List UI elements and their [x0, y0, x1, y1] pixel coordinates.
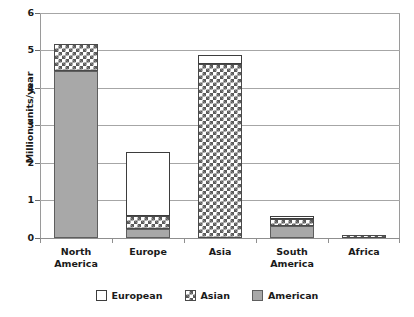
- x-label-north-america: North America: [40, 246, 112, 269]
- x-tick-5: [399, 239, 400, 243]
- y-axis-tick-labels: 6 5 4 3 2 1 0: [8, 0, 34, 317]
- x-tick-2: [184, 239, 185, 243]
- x-tick-1: [112, 239, 113, 243]
- y-tick-label-2: 2: [8, 158, 34, 168]
- bar-segment-american: [126, 229, 170, 238]
- x-label-asia: Asia: [184, 246, 256, 258]
- x-label-line1: North: [61, 246, 91, 257]
- bar-group: [126, 152, 170, 238]
- y-tick-label-6: 6: [8, 8, 34, 18]
- x-label-line1: Africa: [348, 246, 379, 257]
- bar-segment-european: [198, 55, 242, 63]
- x-axis-tick-labels: North America Europe Asia South America …: [40, 246, 400, 280]
- checkered-square-icon: [185, 290, 196, 301]
- x-label-line1: South: [276, 246, 307, 257]
- bar-group: [54, 44, 98, 238]
- bar-segment-asian: [54, 44, 98, 71]
- legend-item-european: European: [96, 290, 163, 301]
- x-label-line2: America: [40, 258, 112, 270]
- chart-legend: European Asian American: [0, 290, 414, 301]
- x-label-line1: Asia: [209, 246, 232, 257]
- legend-label-asian: Asian: [201, 290, 230, 301]
- bar-segment-asian: [270, 219, 314, 227]
- x-axis-line: [40, 238, 400, 239]
- x-label-africa: Africa: [328, 246, 400, 258]
- legend-label-american: American: [268, 290, 318, 301]
- y-tick-label-5: 5: [8, 45, 34, 55]
- bar-segment-asian: [126, 216, 170, 229]
- x-label-line2: America: [256, 258, 328, 270]
- bar-segment-european: [126, 152, 170, 217]
- x-label-europe: Europe: [112, 246, 184, 258]
- bar-group: [270, 216, 314, 239]
- bar-segment-american: [270, 226, 314, 238]
- x-tick-3: [256, 239, 257, 243]
- bar-group: [198, 55, 242, 238]
- bar-segment-american: [54, 71, 98, 238]
- x-label-south-america: South America: [256, 246, 328, 269]
- x-label-line1: Europe: [129, 246, 167, 257]
- legend-item-american: American: [252, 290, 318, 301]
- y-tick-label-4: 4: [8, 83, 34, 93]
- bars-layer: [40, 13, 400, 239]
- legend-item-asian: Asian: [185, 290, 230, 301]
- y-tick-label-3: 3: [8, 120, 34, 130]
- stacked-bar-chart: Million units/year 6 5 4 3 2 1 0 No: [0, 0, 414, 317]
- bar-segment-asian: [198, 64, 242, 238]
- x-tick-0: [40, 239, 41, 243]
- y-tick-label-1: 1: [8, 195, 34, 205]
- white-square-icon: [96, 290, 107, 301]
- y-tick-label-0: 0: [8, 233, 34, 243]
- x-tick-4: [328, 239, 329, 243]
- bar-segment-european: [270, 216, 314, 219]
- legend-label-european: European: [112, 290, 163, 301]
- gray-square-icon: [252, 290, 263, 301]
